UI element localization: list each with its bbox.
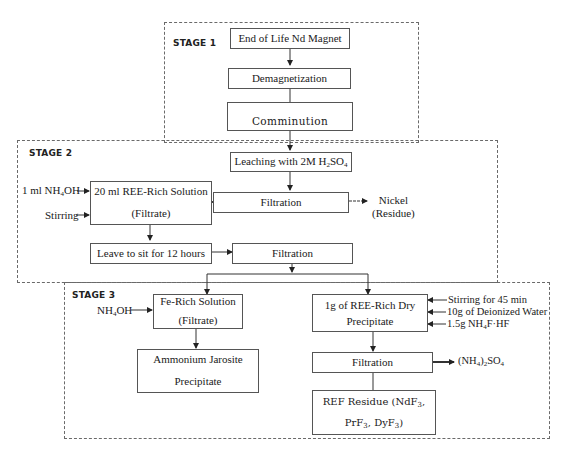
ref-residue-line1: REF Residue (NdF3, — [323, 396, 425, 409]
ammonium-sulfate-output: (NH4)2SO4 — [458, 355, 504, 368]
demagnetization-box: Demagnetization — [228, 68, 351, 89]
ree-rich-dry-precipitate-box: 1g of REE-Rich Dry Precipitate — [312, 294, 428, 332]
stage-1-label: STAGE 1 — [173, 38, 216, 48]
ree-rich-solution-line2: (Filtrate) — [131, 207, 170, 221]
filtration-1-box: Filtration — [213, 192, 349, 213]
ree-rich-solution-box: 20 ml REE-Rich Solution (Filtrate) — [90, 181, 212, 225]
leaching-label: Leaching with 2M H2SO4 — [234, 155, 347, 169]
nh4oh-input: NH4OH — [97, 304, 132, 317]
stage-3-label: STAGE 3 — [72, 290, 115, 300]
ref-residue-line2: PrF3, DyF3) — [345, 417, 403, 430]
fe-rich-solution-line1: Fe-Rich Solution — [160, 295, 235, 309]
nh4oh-1ml-input: 1 ml NH4OH — [22, 184, 80, 197]
filtration-3-label: Filtration — [352, 356, 393, 370]
end-of-life-magnet-box: End of Life Nd Magnet — [230, 28, 350, 49]
stirring-input: Stirring — [45, 209, 79, 222]
comminution-label: Comminution — [252, 115, 328, 128]
stage-2-label: STAGE 2 — [29, 148, 72, 158]
filtration-2-label: Filtration — [272, 247, 313, 261]
fe-rich-solution-box: Fe-Rich Solution (Filtrate) — [153, 294, 243, 329]
end-of-life-magnet-label: End of Life Nd Magnet — [238, 32, 341, 46]
leave-to-sit-label: Leave to sit for 12 hours — [97, 247, 205, 261]
leaching-box: Leaching with 2M H2SO4 — [230, 152, 352, 172]
filtration-3-box: Filtration — [312, 352, 433, 373]
ammonium-jarosite-line2: Precipitate — [174, 375, 221, 389]
filtration-1-label: Filtration — [261, 196, 302, 210]
ref-residue-box: REF Residue (NdF3, PrF3, DyF3) — [312, 390, 436, 435]
ammonium-jarosite-box: Ammonium Jarosite Precipitate — [137, 349, 259, 393]
comminution-box: Comminution — [227, 102, 353, 131]
demagnetization-label: Demagnetization — [252, 72, 327, 86]
ree-rich-dry-line2: Precipitate — [346, 315, 393, 329]
stirring-45-input: Stirring for 45 min — [448, 294, 527, 307]
leave-to-sit-box: Leave to sit for 12 hours — [90, 243, 212, 264]
ammonium-jarosite-line1: Ammonium Jarosite — [153, 353, 243, 367]
fe-rich-solution-line2: (Filtrate) — [178, 314, 217, 328]
deionized-water-input: 10g of Deionized Water — [447, 306, 547, 319]
filtration-2-box: Filtration — [232, 243, 353, 264]
nh4f-hf-input: 1.5g NH4F·HF — [447, 318, 509, 331]
ree-rich-solution-line1: 20 ml REE-Rich Solution — [94, 185, 207, 199]
ree-rich-dry-line1: 1g of REE-Rich Dry — [325, 299, 416, 313]
nickel-residue-output: Nickel (Residue) — [372, 194, 415, 220]
